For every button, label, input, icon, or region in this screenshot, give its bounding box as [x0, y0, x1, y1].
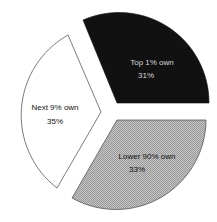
slice-lower-90-percent: Lower 90% own 33% [72, 120, 206, 209]
slice-label: Top 1% own [130, 58, 174, 67]
slice-value: 35% [47, 117, 63, 126]
slice-value: 31% [138, 71, 154, 80]
slice-next-9-percent: Next 9% own 35% [21, 35, 101, 188]
pie-chart: Top 1% own 31% Lower 90% own 33% Next 9%… [0, 0, 217, 222]
slice-label: Next 9% own [31, 103, 78, 112]
slice-label: Lower 90% own [119, 152, 176, 161]
slice-top-1-percent: Top 1% own 31% [83, 12, 209, 103]
slice-value: 33% [129, 165, 145, 174]
